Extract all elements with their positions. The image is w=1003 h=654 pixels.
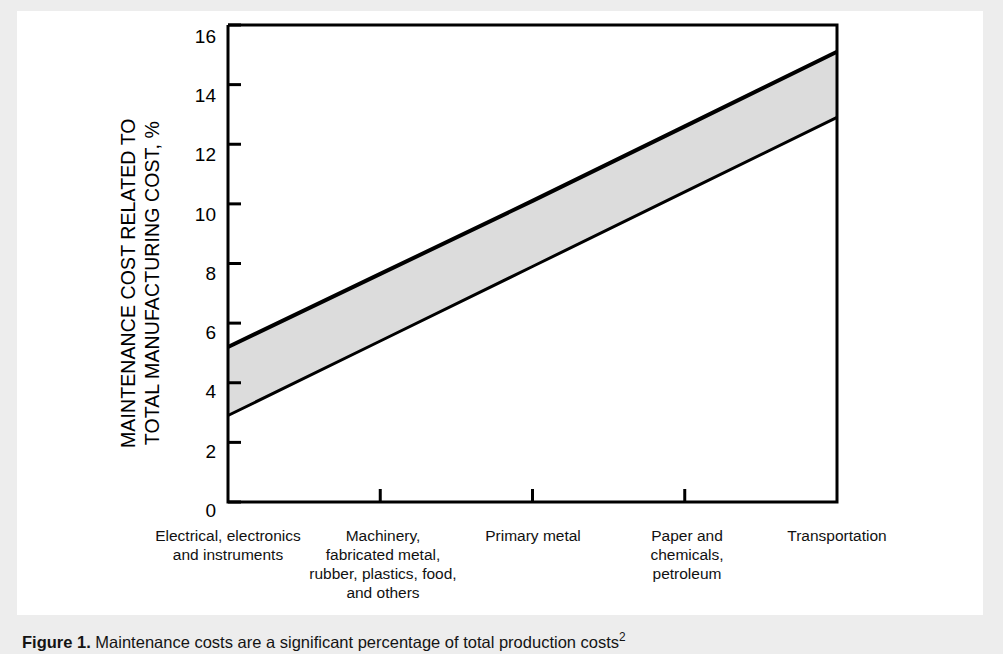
y-tick-marks xyxy=(228,25,241,502)
x-tick-marks xyxy=(380,489,685,502)
figure-page: MAINTENANCE COST RELATED TO TOTAL MANUFA… xyxy=(0,0,1003,654)
upper-bound-line xyxy=(228,52,837,347)
figure-caption-superscript: 2 xyxy=(619,630,626,644)
x-tick-label-transportation: Transportation xyxy=(727,527,947,546)
lower-bound-line xyxy=(228,117,837,415)
figure-plate: MAINTENANCE COST RELATED TO TOTAL MANUFA… xyxy=(17,11,983,615)
figure-caption: Figure 1. Maintenance costs are a signif… xyxy=(22,630,626,652)
figure-caption-label: Figure 1. xyxy=(22,633,91,651)
chart-area: MAINTENANCE COST RELATED TO TOTAL MANUFA… xyxy=(17,11,983,615)
figure-caption-text: Maintenance costs are a significant perc… xyxy=(95,633,619,651)
data-band-area xyxy=(228,52,837,416)
plot-canvas xyxy=(17,11,983,615)
